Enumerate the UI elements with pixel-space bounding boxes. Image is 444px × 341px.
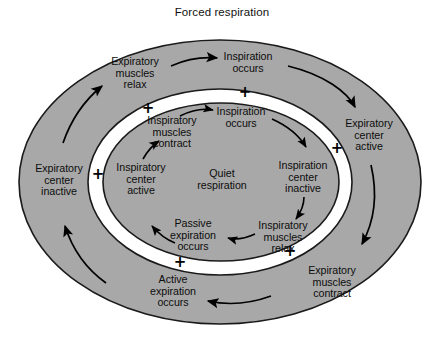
label-inner-inspiratory-muscles-contract: Inspiratory muscles contract <box>147 115 196 150</box>
plus-sign-left: + <box>92 167 105 182</box>
label-outer-expiratory-center-inactive: Expiratory center inactive <box>35 163 83 198</box>
plus-sign-right: + <box>331 141 344 156</box>
label-inner-inspiration-occurs: Inspiration occurs <box>217 106 266 129</box>
label-inner-inspiratory-center-active: Inspiratory center active <box>116 162 165 197</box>
respiration-cycle-figure: Forced respiration <box>0 0 444 341</box>
label-outer-expiratory-muscles-contract: Expiratory muscles contract <box>308 265 356 300</box>
plus-sign-top-right: + <box>239 85 252 100</box>
plus-sign-bottom-left: + <box>174 255 187 270</box>
plus-sign-top-left: + <box>142 101 155 116</box>
label-inner-inspiration-center-inactive: Inspiration center inactive <box>279 160 328 195</box>
label-outer-expiratory-center-active: Expiratory center active <box>345 118 393 153</box>
label-inner-passive-expiration-occurs: Passive expiration occurs <box>170 218 216 253</box>
label-quiet-respiration-caption: Quiet respiration <box>197 168 246 191</box>
label-outer-active-expiration-occurs: Active expiration occurs <box>150 274 196 309</box>
plus-sign-bottom-right: + <box>284 244 297 259</box>
label-outer-expiratory-muscles-relax: Expiratory muscles relax <box>111 56 159 91</box>
label-outer-inspiration-occurs: Inspiration occurs <box>224 51 273 74</box>
